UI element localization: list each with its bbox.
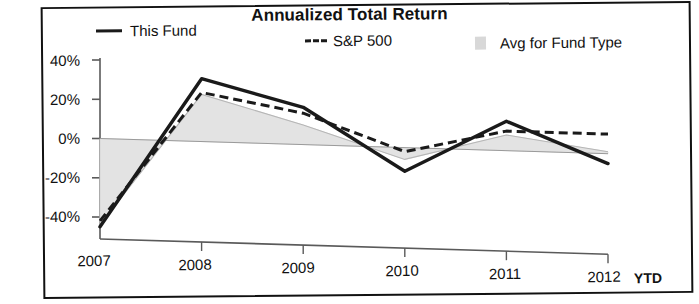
chart-plot-area: Annualized Total Return This Fund S&P 50… (0, 0, 699, 304)
chart-series-canvas (0, 0, 699, 304)
